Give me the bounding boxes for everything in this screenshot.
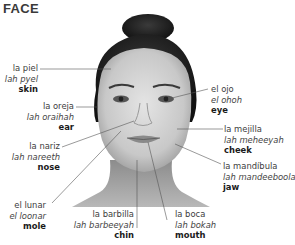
pronunciation: lah nareeth: [4, 152, 60, 163]
english-term: nose: [4, 162, 60, 173]
pronunciation: el loonar: [4, 211, 46, 222]
spanish-term: la piel: [4, 63, 38, 74]
label-eye: el ojo el ohoh eye: [211, 84, 242, 116]
english-term: mole: [4, 221, 46, 232]
spanish-term: la mandíbula: [223, 161, 295, 172]
spanish-term: el ojo: [211, 84, 242, 95]
pronunciation: lah mandeeboolah: [223, 172, 295, 183]
spanish-term: la mejilla: [224, 124, 284, 135]
pronunciation: lah meheeyah: [224, 135, 284, 146]
face-shape: [97, 48, 191, 172]
pronunciation: lah barbeeyah: [60, 220, 134, 231]
pronunciation: el ohoh: [211, 95, 242, 106]
label-cheek: la mejilla lah meheeyah cheek: [224, 124, 284, 156]
label-ear: la oreja lah oraihah ear: [4, 101, 74, 133]
label-nose: la nariz lah nareeth nose: [4, 141, 60, 173]
page-title: FACE: [3, 1, 39, 16]
pronunciation: lah pyel: [4, 74, 38, 85]
spanish-term: la boca: [175, 209, 216, 220]
leader-jaw: [175, 144, 221, 164]
label-mouth: la boca lah bokah mouth: [175, 209, 216, 241]
english-term: ear: [4, 122, 74, 133]
spanish-term: la nariz: [4, 141, 60, 152]
spanish-term: la oreja: [4, 101, 74, 112]
english-term: mouth: [175, 230, 216, 241]
english-term: chin: [60, 230, 134, 241]
english-term: cheek: [224, 145, 284, 156]
pronunciation: lah oraihah: [4, 112, 74, 123]
label-skin: la piel lah pyel skin: [4, 63, 38, 95]
english-term: jaw: [223, 182, 295, 193]
label-mole: el lunar el loonar mole: [4, 200, 46, 232]
spanish-term: el lunar: [4, 200, 46, 211]
english-term: skin: [4, 84, 38, 95]
spanish-term: la barbilla: [60, 209, 134, 220]
label-chin: la barbilla lah barbeeyah chin: [60, 209, 134, 241]
label-jaw: la mandíbula lah mandeeboolah jaw: [223, 161, 295, 193]
pronunciation: lah bokah: [175, 220, 216, 231]
english-term: eye: [211, 105, 242, 116]
